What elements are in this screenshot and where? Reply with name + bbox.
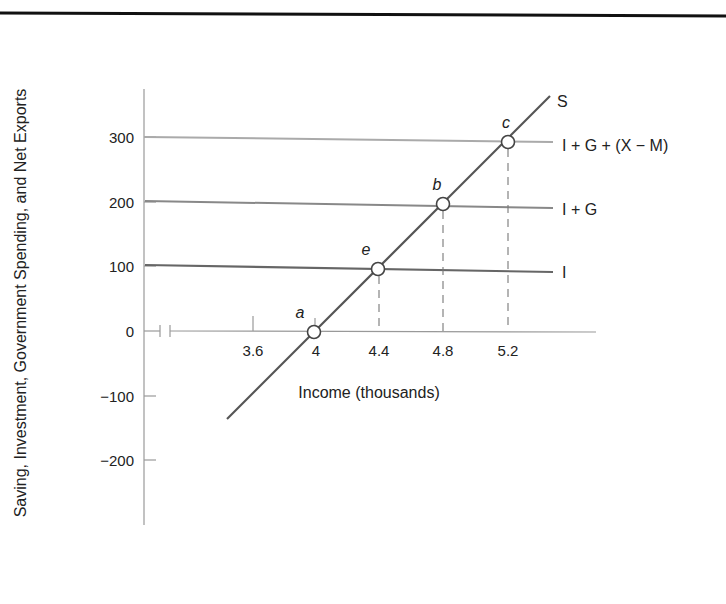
- x-tick-labels: 3.6 4 4.4 4.8 5.2: [243, 342, 519, 359]
- x-tick-label: 4.4: [369, 342, 390, 359]
- point-b-marker: [437, 198, 450, 211]
- y-tick-label: 0: [126, 323, 134, 340]
- drop-lines: [379, 149, 508, 331]
- series-label-i-g-xm: I + G + (X − M): [562, 137, 668, 154]
- point-a-label: a: [296, 304, 305, 321]
- point-c-label: c: [502, 114, 510, 131]
- y-axis-title: Saving, Investment, Government Spending,…: [12, 89, 29, 518]
- point-a-marker: [308, 326, 321, 339]
- y-tick-label: −100: [100, 388, 134, 405]
- top-rule: [0, 13, 726, 16]
- series-line-i-g: [145, 201, 553, 208]
- x-tick-label: 3.6: [243, 342, 264, 359]
- x-axis-title: Income (thousands): [298, 384, 439, 401]
- series-label-i-g: I + G: [562, 201, 597, 218]
- series-label-i: I: [562, 264, 566, 281]
- x-tick-label: 4: [312, 342, 320, 359]
- chart: Saving, Investment, Government Spending,…: [0, 0, 726, 604]
- x-tick-label: 4.8: [433, 342, 454, 359]
- point-b-label: b: [433, 176, 442, 193]
- y-tick-label: −200: [100, 452, 134, 469]
- point-e-label: e: [362, 241, 371, 258]
- y-tick-label: 200: [109, 194, 134, 211]
- y-tick-label: 300: [109, 129, 134, 146]
- y-tick-labels: 300 200 100 0 −100 −200: [100, 129, 134, 469]
- series-line-i: [145, 265, 553, 272]
- y-tick-label: 100: [109, 258, 134, 275]
- series-line-i-g-xm: [145, 137, 553, 142]
- y-ticks: [144, 137, 156, 460]
- series-label-s: S: [557, 93, 568, 110]
- x-tick-label: 5.2: [498, 342, 519, 359]
- x-axis: [144, 325, 596, 337]
- point-e-marker: [372, 263, 385, 276]
- point-c-marker: [502, 136, 515, 149]
- x-ticks: [253, 316, 315, 331]
